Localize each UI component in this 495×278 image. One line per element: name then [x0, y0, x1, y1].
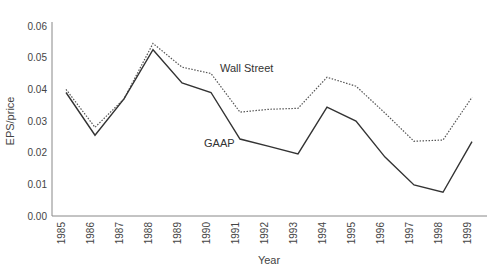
x-tick-label: 1994	[317, 222, 328, 245]
y-tick-label: 0.01	[28, 179, 48, 190]
x-tick-label: 1990	[201, 222, 212, 245]
series-label-wall-street: Wall Street	[220, 62, 273, 74]
x-tick-label: 1998	[433, 222, 444, 245]
x-tick-label: 1993	[288, 222, 299, 245]
y-tick-label: 0.03	[28, 116, 48, 127]
x-tick-label: 1992	[259, 222, 270, 245]
x-tick-label: 1989	[172, 222, 183, 245]
series-line-wall-street	[66, 43, 472, 141]
y-tick-label: 0.06	[28, 21, 48, 32]
x-tick-label: 1986	[85, 222, 96, 245]
x-tick-label: 1987	[114, 222, 125, 245]
x-tick-label: 1991	[230, 222, 241, 245]
x-tick-labels: 1985198619871988198919901991199219931994…	[56, 222, 473, 245]
series-label-gaap: GAAP	[204, 137, 235, 149]
y-tick-labels: 0.000.010.020.030.040.050.06	[28, 21, 48, 222]
x-tick-label: 1995	[346, 222, 357, 245]
x-axis-title: Year	[258, 254, 281, 266]
x-tick-label: 1999	[462, 222, 473, 245]
y-tick-label: 0.02	[28, 147, 48, 158]
x-tick-label: 1996	[375, 222, 386, 245]
x-tick-label: 1988	[143, 222, 154, 245]
y-tick-label: 0.00	[28, 211, 48, 222]
y-tick-label: 0.04	[28, 84, 48, 95]
y-tick-label: 0.05	[28, 52, 48, 63]
x-tick-label: 1985	[56, 222, 67, 245]
y-axis-title: EPS/price	[4, 97, 16, 146]
eps-price-chart: 0.000.010.020.030.040.050.06 19851986198…	[0, 0, 495, 278]
x-tick-label: 1997	[404, 222, 415, 245]
